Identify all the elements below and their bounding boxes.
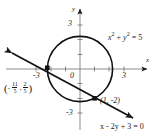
circle-equation-label: x2 + y2 = 5 (108, 31, 142, 42)
point-label-2: ( - 11 5 , 2 5 ) (4, 81, 32, 94)
x-tick-label-3: 3 (122, 72, 126, 80)
line-equation-label: x - 2y + 3 = 0 (100, 123, 144, 131)
circle-eq-plus: + (115, 33, 124, 42)
point-2-comma: , (20, 84, 22, 92)
point-2-sign-x: - (8, 84, 10, 92)
point-2-close-paren: ) (29, 82, 33, 94)
point-2-den-x: 5 (12, 87, 17, 94)
point-2-fraction-x: 11 5 (11, 81, 19, 94)
intersection-marker-2 (45, 66, 50, 71)
y-tick-label-3: 3 (68, 20, 72, 28)
point-2-fraction-y: 2 5 (23, 81, 28, 94)
x-tick-label-neg3: -3 (33, 72, 40, 80)
intersection-marker-1 (92, 96, 97, 101)
y-axis-label: y (72, 6, 75, 13)
x-axis-label: x (146, 57, 149, 64)
circle-eq-equals: = 5 (130, 33, 143, 42)
plot-canvas (0, 0, 163, 139)
y-tick-label-neg3: -3 (66, 109, 73, 117)
circle-line-intersection-figure: x y 0 -3 3 3 -3 x2 + y2 = 5 x - 2y + 3 =… (0, 0, 163, 139)
point-2-den-y: 5 (23, 87, 28, 94)
point-label-1: (1, -2) (100, 97, 120, 105)
origin-label: 0 (70, 72, 74, 80)
